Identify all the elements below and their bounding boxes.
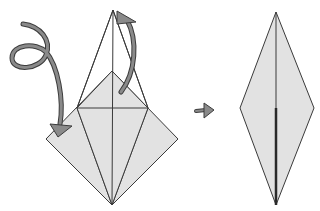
- diagram-canvas: [0, 0, 320, 211]
- step-arrowhead-icon: [204, 103, 214, 118]
- before-figure: [46, 10, 178, 205]
- loop-fold-arrow: [12, 24, 72, 137]
- step-arrow: [196, 103, 214, 118]
- origami-diagram: Origami fold step: squash fold to kite d…: [0, 0, 320, 211]
- fold-up-arrowhead-icon: [117, 11, 136, 24]
- after-figure: [240, 12, 314, 205]
